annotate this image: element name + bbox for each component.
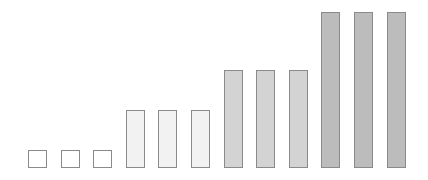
bar-10 — [321, 12, 340, 168]
bar-4 — [126, 110, 145, 168]
bar-3 — [93, 150, 112, 168]
bar-2 — [61, 150, 80, 168]
bar-chart — [0, 0, 428, 180]
bar-11 — [354, 12, 373, 168]
bar-12 — [387, 12, 406, 168]
bar-1 — [28, 150, 47, 168]
bar-6 — [191, 110, 210, 168]
bar-9 — [289, 70, 308, 168]
bar-8 — [256, 70, 275, 168]
bar-7 — [224, 70, 243, 168]
bar-5 — [158, 110, 177, 168]
